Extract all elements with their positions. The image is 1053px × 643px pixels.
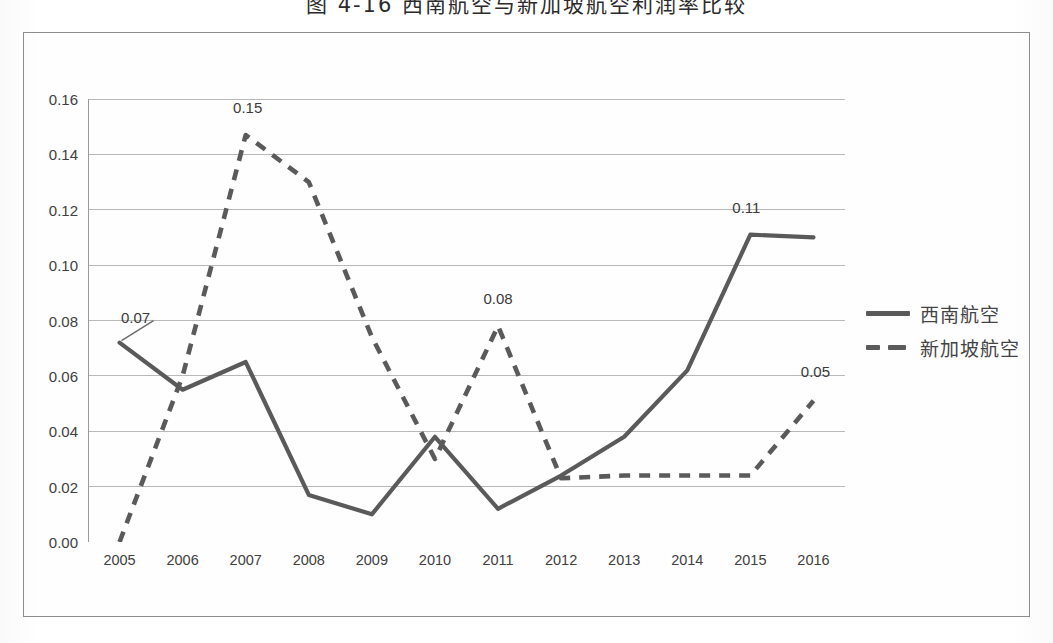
x-tick-label: 2006 — [166, 552, 198, 568]
x-tick-label: 2007 — [230, 552, 262, 568]
data-label: 0.08 — [483, 290, 512, 307]
x-tick-label: 2008 — [293, 552, 325, 568]
series-line-2 — [120, 135, 814, 542]
x-tick-label: 2011 — [482, 552, 513, 568]
data-label: 0.11 — [732, 198, 760, 215]
data-label: 0.07 — [121, 308, 150, 325]
legend-item-solid[interactable]: 西南航空 — [866, 296, 1031, 330]
legend-swatch-dashed-line-icon — [866, 340, 910, 354]
x-tick-label: 2013 — [608, 552, 640, 568]
data-label: 0.05 — [801, 362, 830, 379]
y-tick-label: 0.08 — [49, 312, 78, 329]
legend-label-southwest: 西南航空 — [920, 300, 1000, 327]
y-tick-label: 0.14 — [49, 146, 78, 163]
x-tick-label: 2016 — [797, 552, 829, 568]
y-tick-label: 0.06 — [49, 367, 78, 384]
y-tick-label: 0.12 — [49, 201, 78, 218]
y-tick-label: 0.02 — [49, 478, 78, 495]
legend-swatch-solid-line-icon — [866, 306, 910, 320]
y-tick-label: 0.10 — [49, 257, 78, 274]
legend-label-singapore: 新加坡航空 — [920, 334, 1020, 361]
data-label: 0.15 — [233, 98, 262, 115]
legend: 西南航空 新加坡航空 — [866, 296, 1031, 364]
x-axis: 2005200620072008200920102011201220132014… — [88, 552, 845, 576]
plot-area: 0.070.150.080.110.05 — [88, 99, 845, 542]
x-tick-label: 2014 — [671, 552, 703, 568]
x-tick-label: 2015 — [734, 552, 766, 568]
y-axis: 0.000.020.040.060.080.100.120.140.16 — [0, 99, 78, 542]
y-tick-label: 0.04 — [49, 423, 78, 440]
series-line-1 — [120, 235, 814, 515]
x-tick-label: 2012 — [545, 552, 577, 568]
page-title: 图 4-16 西南航空与新加坡航空利润率比较 — [0, 0, 1053, 18]
x-tick-label: 2005 — [103, 552, 135, 568]
legend-item-dashed[interactable]: 新加坡航空 — [866, 330, 1031, 364]
x-tick-label: 2009 — [356, 552, 388, 568]
y-tick-label: 0.16 — [49, 91, 78, 108]
chart-canvas — [88, 99, 845, 542]
y-tick-label: 0.00 — [49, 534, 78, 551]
x-tick-label: 2010 — [419, 552, 451, 568]
